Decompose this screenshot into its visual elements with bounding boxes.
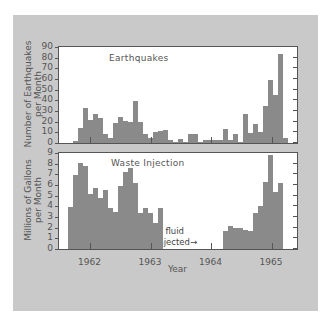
y-tick-mark <box>55 174 59 175</box>
y-tick-mark <box>55 185 59 186</box>
x-tick-mark <box>272 137 273 143</box>
arrow-right-icon: → <box>190 237 197 247</box>
x-tick-mark <box>90 243 91 249</box>
y-tick-mark <box>293 131 297 132</box>
y-tick-mark <box>55 47 59 48</box>
x-axis-label: Year <box>168 264 187 274</box>
earthquakes-title: Earthquakes <box>109 53 168 63</box>
y-tick-mark <box>55 164 59 165</box>
y-tick-mark <box>293 110 297 111</box>
x-tick-mark <box>151 137 152 143</box>
y-tick-mark <box>55 58 59 59</box>
y-tick-mark <box>293 237 297 238</box>
y-tick-mark <box>293 163 297 164</box>
y-tick-mark <box>55 217 59 218</box>
x-tick-label: 1962 <box>78 257 101 267</box>
y-tick-mark <box>293 205 297 206</box>
y-tick-mark <box>293 173 297 174</box>
y-tick-mark <box>55 68 59 69</box>
y-tick-mark <box>293 184 297 185</box>
data-bar <box>158 208 163 249</box>
earthquakes-y-label: Number of Earthquakes per Month <box>23 39 43 149</box>
y-tick-mark <box>293 195 297 196</box>
y-tick-mark <box>293 216 297 217</box>
y-tick-mark <box>55 90 59 91</box>
x-tick-label: 1963 <box>139 257 162 267</box>
x-tick-mark <box>211 243 212 249</box>
y-tick-mark <box>55 111 59 112</box>
y-tick-mark <box>293 78 297 79</box>
y-tick-mark <box>293 121 297 122</box>
y-tick-mark <box>293 142 297 143</box>
y-tick-mark <box>293 57 297 58</box>
waste-injection-y-label: Millions of Gallons per Month <box>23 145 43 255</box>
x-tick-label: 1964 <box>199 257 222 267</box>
data-bar <box>278 54 283 143</box>
y-tick-mark <box>55 238 59 239</box>
y-tick-mark <box>293 99 297 100</box>
y-tick-mark <box>55 153 59 154</box>
earthquakes-plot: Earthquakes <box>58 46 298 144</box>
x-tick-mark <box>272 243 273 249</box>
y-tick-mark <box>293 46 297 47</box>
y-tick-mark <box>55 196 59 197</box>
x-tick-mark <box>90 137 91 143</box>
waste-injection-title: Waste Injection <box>111 158 185 168</box>
y-tick-mark <box>55 206 59 207</box>
y-tick-mark <box>55 143 59 144</box>
y-tick-mark <box>55 79 59 80</box>
y-tick-mark <box>55 132 59 133</box>
y-tick-mark <box>55 228 59 229</box>
data-bar <box>278 183 283 249</box>
x-tick-mark <box>211 137 212 143</box>
y-tick-mark <box>293 89 297 90</box>
waste-injection-plot: Waste Injection ←no fluid injected→ <box>58 152 298 250</box>
y-tick-mark <box>55 122 59 123</box>
y-tick-mark <box>55 100 59 101</box>
y-tick-mark <box>293 227 297 228</box>
y-tick-mark <box>293 152 297 153</box>
x-tick-label: 1965 <box>260 257 283 267</box>
x-tick-mark <box>151 243 152 249</box>
y-tick-mark <box>293 248 297 249</box>
y-tick-mark <box>293 67 297 68</box>
data-bar <box>283 138 288 143</box>
y-tick-mark <box>55 249 59 250</box>
